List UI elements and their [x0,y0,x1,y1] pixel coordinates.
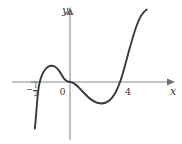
fraction-stack: 1 2 [33,83,38,98]
fraction-denominator: 2 [33,91,38,98]
fraction-numerator: 1 [33,83,38,90]
x-tick-label-4: 4 [125,86,131,97]
cubic-graph-figure: y x 0 4 − 1 2 [0,0,182,144]
plot-canvas: y x 0 4 [0,0,182,144]
x-axis-label: x [170,85,177,98]
fraction-minus-sign: − [26,86,33,94]
origin-label: 0 [60,86,66,97]
y-axis [66,7,73,140]
x-tick-label-negative-one-half: − 1 2 [26,83,38,98]
y-axis-label: y [61,4,69,17]
cubic-curve [35,10,147,129]
